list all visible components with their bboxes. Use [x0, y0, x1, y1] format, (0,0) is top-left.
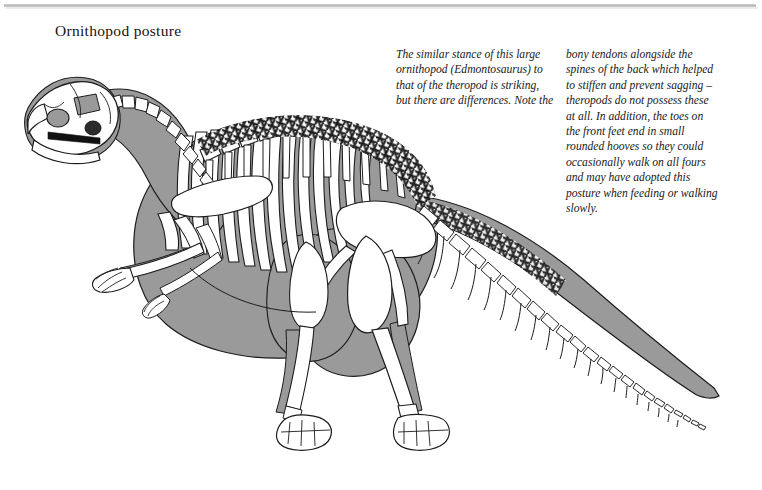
- lateral-temporal-fenestra: [85, 121, 101, 135]
- hind-foot-far: [277, 415, 332, 450]
- orbit: [47, 109, 69, 127]
- manus-near: [93, 268, 134, 292]
- skeleton-drawing: [25, 77, 719, 450]
- hind-foot-near: [394, 415, 450, 451]
- caudal-vertebrae: [417, 206, 706, 430]
- page-canvas: Ornithopod posture The similar stance of…: [0, 0, 762, 490]
- skeleton-figure: [0, 0, 762, 490]
